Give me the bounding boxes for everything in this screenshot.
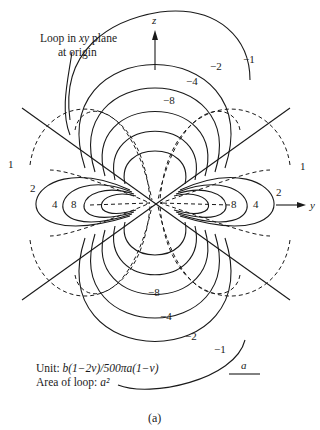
contour-label-top-neg8: −8 [163,94,175,106]
area-text: Area of loop: a² [36,376,110,389]
stress-contour-diagram: z y Loop in xy plane at origin −1 −2 −4 … [0,0,320,430]
y-axis-label: y [309,199,315,211]
contour-label-right-1: 1 [300,160,306,172]
diagonal-lines [22,108,290,300]
contour-label-bottom-neg1: −1 [214,343,226,355]
contour-label-right-2: 2 [276,186,282,198]
y-axis-arrow [276,202,306,208]
contour-label-right-8: 8 [231,198,237,210]
contour-label-bottom-neg2: −2 [185,330,197,342]
contour-label-bottom-neg8: −8 [148,286,160,298]
scale-bar-label: a [241,359,247,371]
contour-label-right-4: 4 [253,198,259,210]
left-positive-contours [36,178,136,226]
contour-label-top-neg1: −1 [243,53,255,65]
right-positive-contours [174,178,274,226]
contour-label-left-8: 8 [71,198,77,210]
z-axis-label: z [151,14,157,26]
contour-label-bottom-neg4: −4 [160,310,172,322]
loop-annotation-line2: at origin [58,46,97,59]
contour-label-top-neg2: −2 [210,60,222,72]
unit-text: Unit: b(1−2ν)/500πa(1−ν) [36,362,159,375]
contour-label-left-4: 4 [52,198,58,210]
figure-caption: (a) [148,411,161,425]
loop-annotation-line1: Loop in xy plane [40,32,117,45]
contour-label-top-neg4: −4 [186,75,198,87]
contour-label-left-1: 1 [8,158,14,170]
dashed-stress-trajectories [30,109,290,296]
contour-label-left-2: 2 [30,182,36,194]
